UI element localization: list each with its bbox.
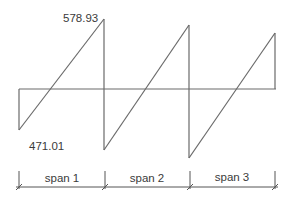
span-1-label: span 1 bbox=[45, 172, 80, 184]
span-2-shape bbox=[104, 25, 189, 150]
max-value-label: 578.93 bbox=[63, 12, 98, 24]
span-3-shape bbox=[189, 33, 275, 158]
span-2-label: span 2 bbox=[130, 172, 165, 184]
span-3-label: span 3 bbox=[215, 171, 250, 183]
shear-diagram: 578.93 471.01 span 1 span 2 span 3 bbox=[0, 0, 292, 198]
span-1-shape bbox=[19, 19, 104, 130]
min-value-label: 471.01 bbox=[29, 140, 64, 152]
